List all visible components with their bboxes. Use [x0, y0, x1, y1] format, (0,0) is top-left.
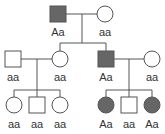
- individual-I1-affected-male: [50, 6, 66, 22]
- genotype-label-III5: aa: [123, 118, 136, 130]
- genotype-label-III2: aa: [31, 118, 44, 130]
- genotype-label-I2: aa: [99, 26, 112, 38]
- genotype-label-II2: aa: [54, 71, 67, 83]
- genotype-label-III3: aa: [54, 118, 67, 130]
- pedigree-chart: Aa aa aa aa Aa aa aa aa aa Aa aa Aa: [0, 0, 165, 134]
- individual-III4-affected-female: [98, 97, 114, 113]
- genotype-label-III6: Aa: [145, 118, 159, 130]
- individual-II2-female: [52, 51, 68, 67]
- genotype-label-III4: Aa: [99, 118, 113, 130]
- individual-II3-affected-male: [98, 51, 114, 67]
- genotype-label-II1: aa: [7, 71, 20, 83]
- individual-III5-male: [121, 97, 137, 113]
- individual-II4-female: [144, 51, 160, 67]
- individual-III3-female: [52, 97, 68, 113]
- pedigree-lines: [14, 14, 152, 97]
- genotype-label-II4: aa: [146, 71, 159, 83]
- individual-III6-affected-female: [144, 97, 160, 113]
- individual-I2-female: [97, 6, 113, 22]
- individual-II1-male: [5, 51, 21, 67]
- genotype-label-I1: Aa: [51, 26, 65, 38]
- individual-III2-male: [29, 97, 45, 113]
- individual-III1-female: [6, 97, 22, 113]
- genotype-label-III1: aa: [8, 118, 21, 130]
- genotype-label-II3: Aa: [99, 71, 113, 83]
